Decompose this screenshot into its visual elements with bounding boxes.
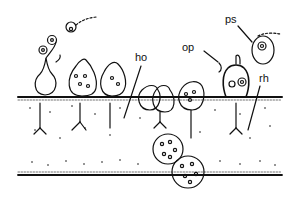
thallus-2 <box>101 62 126 128</box>
center-cluster <box>139 82 204 138</box>
ho-leader-line <box>124 66 141 118</box>
lower-surface-line <box>18 172 282 175</box>
label-ho: ho <box>135 52 147 63</box>
ps-leader-line <box>238 26 252 42</box>
label-op: op <box>182 42 194 53</box>
op-leader-line <box>204 51 218 62</box>
label-rh: rh <box>259 73 269 84</box>
rh-leader-line <box>248 86 260 130</box>
substrate-dots <box>29 105 276 166</box>
diagram-canvas <box>0 0 295 202</box>
zoospore <box>252 33 280 64</box>
right-sporangium <box>219 55 249 134</box>
thallus-1 <box>69 59 96 130</box>
label-ps: ps <box>225 14 237 25</box>
